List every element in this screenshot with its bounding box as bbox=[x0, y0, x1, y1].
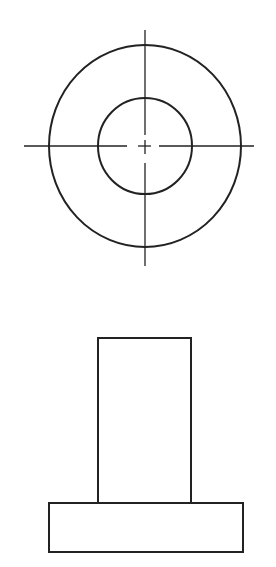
front-view bbox=[49, 338, 243, 552]
shaft-rectangle bbox=[98, 338, 191, 503]
base-rectangle bbox=[49, 503, 243, 552]
technical-drawing bbox=[0, 0, 276, 567]
top-view bbox=[24, 30, 254, 266]
